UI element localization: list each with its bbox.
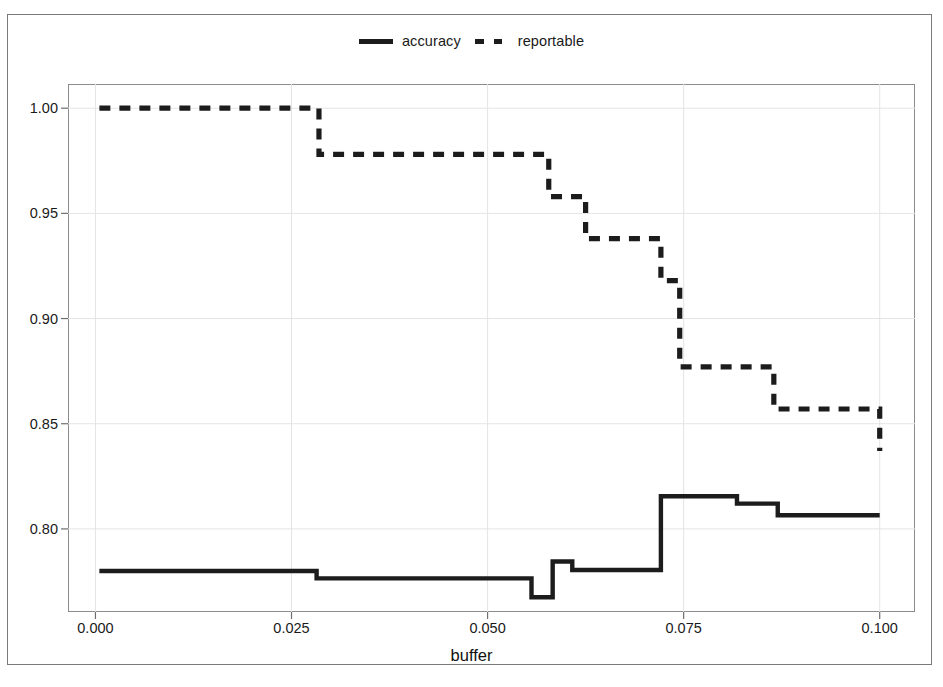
y-tick-label: 1.00 [6, 100, 58, 116]
legend-label-accuracy: accuracy [402, 33, 461, 49]
x-tick-label: 0.000 [77, 620, 113, 636]
legend-entry-accuracy: accuracy [359, 33, 461, 49]
y-axis-tick-labels: 0.800.850.900.951.00 [0, 0, 58, 687]
dashed-line-swatch [475, 39, 509, 44]
solid-line-swatch [359, 39, 393, 44]
x-tick-label: 0.050 [469, 620, 505, 636]
y-tick-label: 0.95 [6, 205, 58, 221]
y-tick-label: 0.80 [6, 521, 58, 537]
x-axis-title: buffer [0, 646, 943, 665]
legend-entry-reportable: reportable [475, 33, 584, 49]
x-tick-label: 0.100 [862, 620, 898, 636]
chart-legend: accuracy reportable [0, 28, 943, 54]
x-tick-label: 0.075 [665, 620, 701, 636]
plot-panel [68, 84, 915, 612]
y-tick-label: 0.90 [6, 311, 58, 327]
x-tick-label: 0.025 [273, 620, 309, 636]
chart-figure: accuracy reportable 0.800.850.900.951.00… [0, 0, 943, 687]
legend-label-reportable: reportable [518, 33, 584, 49]
y-tick-label: 0.85 [6, 416, 58, 432]
